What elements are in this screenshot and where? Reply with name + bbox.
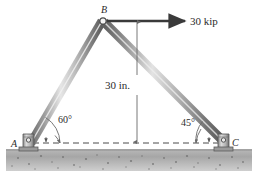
figure-canvas: B A C 30 kip 30 in. 60° 45° [0,0,257,179]
joint-label-c: C [232,138,239,148]
baseline-ticks [46,137,209,142]
angle-label-45: 45° [181,118,195,128]
ground-concrete [6,149,252,171]
joint-label-a: A [11,139,17,149]
force-magnitude-label: 30 kip [190,16,218,27]
angle-label-60: 60° [58,115,72,125]
pin-joint-b [100,18,106,24]
joint-label-b: B [101,5,107,15]
height-dimension-label: 30 in. [105,80,130,91]
